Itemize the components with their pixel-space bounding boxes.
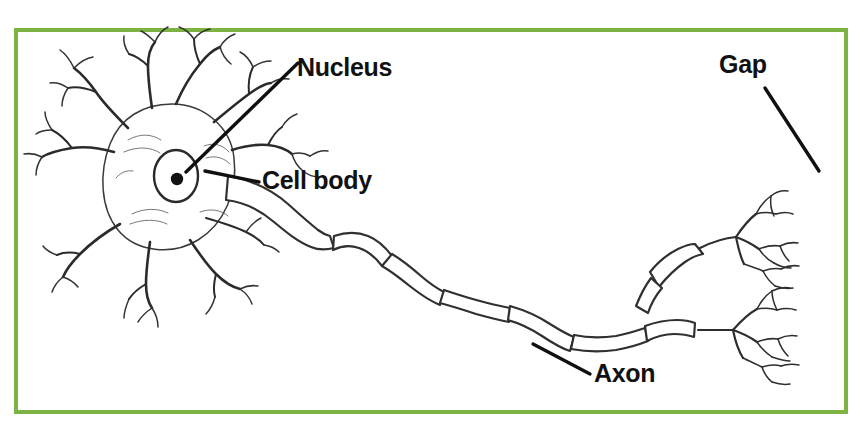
label-axon: Axon	[594, 361, 655, 386]
label-cell-body: Cell body	[262, 168, 372, 193]
label-gap: Gap	[719, 52, 767, 77]
figure-root: .ink { fill:none; stroke:#262626; stroke…	[0, 0, 868, 435]
diagram-frame-border	[14, 28, 848, 414]
label-nucleus: Nucleus	[297, 55, 392, 80]
